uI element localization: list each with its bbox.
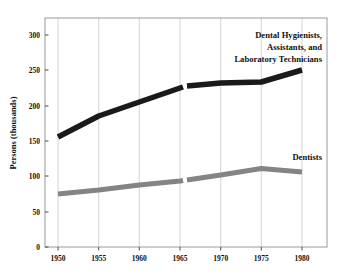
y-tick-label-200: 200 xyxy=(29,102,41,111)
x-tick-label-1975: 1975 xyxy=(254,254,269,263)
y-tick-label-300: 300 xyxy=(29,31,41,40)
annotation-dentists-line1: Dentists xyxy=(292,152,322,162)
x-tick-label-1960: 1960 xyxy=(132,254,147,263)
annotation-hygienists-line3: Laboratory Technicians xyxy=(234,54,322,64)
line-chart: 300 250 200 150 100 50 0 1950 1955 1960 … xyxy=(0,0,344,278)
y-tick-label-250: 250 xyxy=(29,66,41,75)
annotation-dentists: Dentists xyxy=(292,152,322,162)
annotation-hygienists-line1: Dental Hygienists, xyxy=(255,30,322,40)
x-tick-label-1965: 1965 xyxy=(173,254,188,263)
y-tick-label-150: 150 xyxy=(29,137,41,146)
x-tick-label-1955: 1955 xyxy=(91,254,106,263)
x-tick-label-1970: 1970 xyxy=(213,254,228,263)
y-tick-label-0: 0 xyxy=(36,243,40,252)
chart-figure: 300 250 200 150 100 50 0 1950 1955 1960 … xyxy=(0,0,344,278)
y-axis-title: Persons (thousands) xyxy=(8,96,18,169)
annotation-hygienists-line2: Assistants, and xyxy=(267,42,322,52)
y-tick-label-100: 100 xyxy=(29,172,41,181)
y-tick-label-50: 50 xyxy=(33,208,41,217)
x-tick-label-1980: 1980 xyxy=(295,254,310,263)
x-tick-label-1950: 1950 xyxy=(51,254,66,263)
